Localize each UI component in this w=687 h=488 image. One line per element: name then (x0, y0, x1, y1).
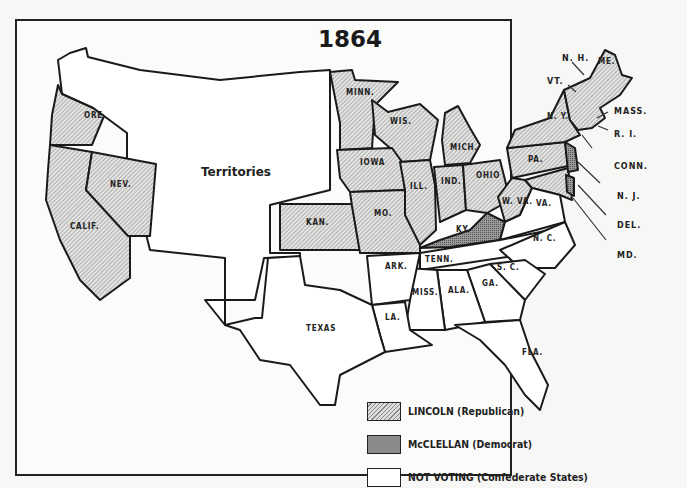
label-mo: MO. (374, 209, 392, 218)
label-tenn: TENN. (425, 255, 454, 264)
state-ind (434, 165, 466, 222)
leader-ri (598, 126, 608, 130)
state-iowa (337, 148, 405, 192)
legend-label: NOT VOTING (Confederate States) (408, 471, 588, 484)
state-mich (442, 106, 480, 165)
state-del (566, 175, 574, 196)
lincoln-swatch (367, 402, 401, 421)
label-ore: ORE. (84, 111, 107, 120)
mcclellan-swatch (367, 435, 401, 454)
label-del: DEL. (617, 221, 641, 230)
label-vt: VT. (547, 77, 563, 86)
legend-label: LINCOLN (Republican) (408, 405, 524, 418)
state-nj (565, 142, 578, 172)
label-kan: KAN. (306, 218, 329, 227)
leader-conn (582, 135, 592, 148)
label-nj: N. J. (617, 192, 641, 201)
label-nc: N. C. (533, 234, 556, 243)
label-ri: R. I. (614, 130, 637, 139)
label-pa: PA. (528, 155, 543, 164)
label-miss: MISS. (412, 288, 439, 297)
map-legend: LINCOLN (Republican) McCLELLAN (Democrat… (367, 401, 620, 488)
label-nev: NEV. (110, 180, 131, 189)
legend-label: McCLELLAN (Democrat) (408, 438, 532, 451)
label-mich: MICH. (450, 143, 478, 152)
leader-nj (578, 162, 600, 183)
label-iowa: IOWA (360, 158, 385, 167)
leader-md (573, 198, 606, 240)
label-ny: N. Y. (547, 112, 569, 121)
legend-item-mcclellan: McCLELLAN (Democrat) (367, 434, 620, 454)
not-voting-swatch (367, 468, 401, 487)
label-minn: MINN. (346, 88, 375, 97)
label-ill: ILL. (410, 182, 428, 191)
label-texas: TEXAS (306, 324, 336, 333)
label-nh: N. H. (562, 54, 589, 63)
leader-nh (572, 62, 584, 75)
label-ala: ALA. (448, 286, 470, 295)
label-fla: FLA. (522, 348, 543, 357)
label-mass: MASS. (614, 107, 647, 116)
label-va: VA. (536, 199, 552, 208)
territories-label: Territories (201, 165, 271, 179)
label-la: LA. (385, 313, 400, 322)
label-sc: S. C. (497, 263, 519, 272)
label-me: ME. (598, 57, 615, 66)
label-md: MD. (617, 251, 638, 260)
label-conn: CONN. (614, 162, 648, 171)
label-ky: KY. (456, 225, 471, 234)
state-kan (280, 204, 360, 250)
state-fla (455, 320, 548, 410)
legend-item-lincoln: LINCOLN (Republican) (367, 401, 620, 421)
legend-item-not-voting: NOT VOTING (Confederate States) (367, 467, 620, 487)
label-ind: IND. (441, 177, 462, 186)
label-ohio: OHIO (476, 171, 500, 180)
label-calif: CALIF. (70, 222, 99, 231)
label-wva: W. VA. (502, 197, 533, 206)
label-wis: WIS. (390, 117, 412, 126)
label-ark: ARK. (385, 262, 408, 271)
label-ga: GA. (482, 279, 499, 288)
